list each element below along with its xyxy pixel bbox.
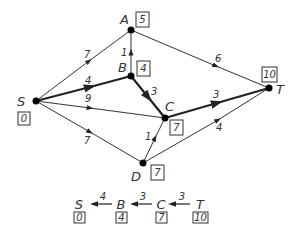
node-d bbox=[140, 160, 147, 167]
shortest-path-summary: S 0 4 B 4 3 C 7 3 T 10 bbox=[74, 191, 208, 223]
edge-weight-a-t: 6 bbox=[215, 53, 221, 64]
edge-s-b bbox=[36, 76, 131, 101]
path-node-value-t: 10 bbox=[194, 212, 207, 223]
edge-weight-s-c: 9 bbox=[85, 93, 91, 104]
path-node-value-s: 0 bbox=[76, 212, 82, 223]
node-s bbox=[33, 98, 40, 105]
edge-s-d bbox=[36, 101, 143, 163]
path-weight-2: 3 bbox=[140, 191, 146, 202]
svg-text:0: 0 bbox=[21, 113, 27, 124]
node-label-d: D bbox=[131, 169, 141, 184]
edge-weight-c-t: 3 bbox=[213, 89, 219, 100]
node-b bbox=[128, 73, 135, 80]
edge-s-c bbox=[36, 101, 165, 118]
shortest-path-graph: 7 4 9 7 1 3 6 3 1 4 S A B C D T 0 5 4 7 … bbox=[0, 0, 294, 237]
svg-text:4: 4 bbox=[140, 63, 146, 74]
svg-text:7: 7 bbox=[154, 167, 161, 178]
edge-weight-b-a: 1 bbox=[121, 47, 127, 58]
node-a bbox=[128, 27, 135, 34]
node-value-box-s: 0 bbox=[18, 112, 30, 125]
node-c bbox=[162, 115, 169, 122]
node-label-s: S bbox=[17, 94, 25, 109]
edge-weight-s-a: 7 bbox=[84, 49, 91, 60]
edge-s-a bbox=[36, 30, 131, 101]
path-node-value-c: 7 bbox=[158, 212, 165, 223]
node-label-a: A bbox=[119, 12, 129, 27]
path-node-label-b: B bbox=[117, 197, 126, 212]
path-weight-1: 4 bbox=[100, 191, 106, 202]
node-value-box-b: 4 bbox=[137, 61, 150, 76]
path-node-label-t: T bbox=[196, 197, 205, 212]
edge-b-c bbox=[131, 76, 165, 118]
node-value-box-c: 7 bbox=[170, 120, 183, 135]
edge-weight-d-c: 1 bbox=[145, 131, 151, 142]
edge-weight-d-t: 4 bbox=[216, 122, 222, 133]
path-weight-3: 3 bbox=[179, 191, 185, 202]
path-node-label-s: S bbox=[75, 197, 83, 212]
edge-d-t bbox=[143, 88, 269, 163]
node-label-c: C bbox=[165, 99, 175, 114]
node-value-box-a: 5 bbox=[136, 12, 149, 27]
node-value-box-t: 10 bbox=[262, 67, 277, 82]
path-node-value-b: 4 bbox=[118, 212, 124, 223]
path-node-label-c: C bbox=[156, 197, 166, 212]
svg-text:7: 7 bbox=[173, 122, 180, 133]
svg-text:10: 10 bbox=[263, 69, 276, 80]
edge-weight-s-d: 7 bbox=[84, 135, 91, 146]
edge-weight-b-c: 3 bbox=[151, 86, 157, 97]
node-value-box-d: 7 bbox=[151, 165, 164, 180]
edge-weight-s-b: 4 bbox=[85, 75, 91, 86]
svg-text:5: 5 bbox=[139, 14, 145, 25]
node-label-t: T bbox=[276, 82, 285, 97]
node-t bbox=[266, 85, 273, 92]
node-label-b: B bbox=[118, 60, 127, 75]
edge-a-t bbox=[131, 30, 269, 88]
